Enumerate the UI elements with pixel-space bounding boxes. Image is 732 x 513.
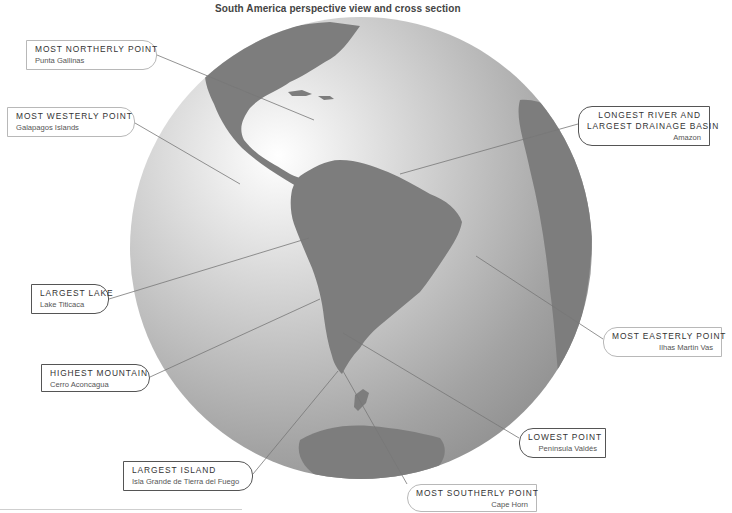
label-place: Amazon	[587, 132, 701, 143]
globe	[130, 17, 592, 486]
label-heading: LARGEST LAKE	[40, 288, 100, 299]
label-most-northerly-point: MOST NORTHERLY POINT Punta Gallinas	[26, 40, 157, 70]
label-most-southerly-point: MOST SOUTHERLY POINT Cape Horn	[407, 484, 537, 512]
label-heading: HIGHEST MOUNTAIN	[50, 368, 141, 379]
label-largest-island: LARGEST ISLAND Isla Grande de Tierra del…	[123, 461, 253, 491]
label-heading: LOWEST POINT	[528, 432, 597, 443]
label-largest-lake: LARGEST LAKE Lake Titicaca	[31, 284, 109, 314]
label-place: Isla Grande de Tierra del Fuego	[132, 476, 244, 487]
label-place: Ilhas Martin Vas	[612, 342, 713, 353]
label-place: Galapagos Islands	[16, 122, 126, 133]
label-most-easterly-point: MOST EASTERLY POINT Ilhas Martin Vas	[603, 327, 722, 357]
label-heading: MOST NORTHERLY POINT	[35, 44, 148, 55]
label-heading: MOST WESTERLY POINT	[16, 111, 126, 122]
label-place: Lake Titicaca	[40, 299, 100, 310]
label-heading: LONGEST RIVER AND	[587, 110, 701, 121]
label-highest-mountain: HIGHEST MOUNTAIN Cerro Aconcagua	[41, 364, 150, 392]
label-place: Cerro Aconcagua	[50, 379, 141, 390]
footer-divider	[0, 509, 242, 510]
label-longest-river: LONGEST RIVER AND LARGEST DRAINAGE BASIN…	[578, 106, 710, 146]
antarctica-landmass	[299, 426, 445, 486]
label-place: Punta Gallinas	[35, 55, 148, 66]
label-most-westerly-point: MOST WESTERLY POINT Galapagos Islands	[7, 107, 135, 137]
label-heading: MOST EASTERLY POINT	[612, 331, 713, 342]
label-heading-line2: LARGEST DRAINAGE BASIN	[587, 121, 701, 132]
globe-diagram	[0, 0, 732, 513]
label-place: Península Valdés	[528, 443, 597, 454]
label-place: Cape Horn	[416, 499, 528, 510]
label-heading: LARGEST ISLAND	[132, 465, 244, 476]
label-heading: MOST SOUTHERLY POINT	[416, 488, 528, 499]
label-lowest-point: LOWEST POINT Península Valdés	[519, 428, 606, 458]
